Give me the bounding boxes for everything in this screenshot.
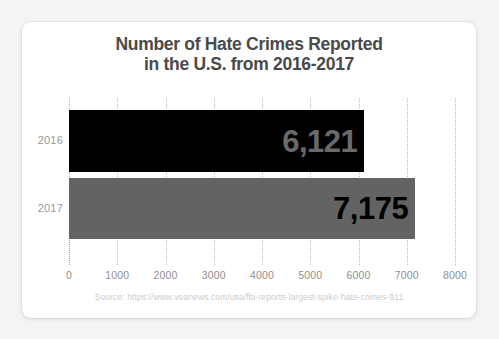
bar-value-2017: 7,175: [333, 193, 408, 224]
bar-series: 6,121 7,175: [69, 98, 455, 265]
x-tick-6000: 6000: [346, 269, 370, 281]
bar-2017[interactable]: 7,175: [69, 178, 415, 239]
x-tick-1000: 1000: [105, 269, 129, 281]
x-tick-0: 0: [66, 269, 72, 281]
x-tick-8000: 8000: [443, 269, 467, 281]
bar-2016[interactable]: 6,121: [69, 110, 364, 172]
category-axis: 2016 2017: [22, 98, 69, 265]
chart-card: Number of Hate Crimes Reported in the U.…: [22, 22, 476, 318]
x-tick-7000: 7000: [395, 269, 419, 281]
category-label-2016: 2016: [38, 134, 63, 146]
gridline-8000: [455, 98, 456, 265]
chart-canvas: Number of Hate Crimes Reported in the U.…: [0, 0, 499, 339]
x-tick-5000: 5000: [298, 269, 322, 281]
bar-value-2016: 6,121: [282, 126, 357, 157]
x-tick-4000: 4000: [250, 269, 274, 281]
chart-title-line-2: in the U.S. from 2016-2017: [22, 54, 476, 74]
source-caption: Source: https://www.voanews.com/usa/fbi-…: [22, 292, 476, 302]
chart-title: Number of Hate Crimes Reported in the U.…: [22, 34, 476, 74]
category-label-2017: 2017: [38, 202, 63, 214]
x-axis-tick-labels: 010002000300040005000600070008000: [69, 269, 455, 285]
chart-title-line-1: Number of Hate Crimes Reported: [115, 34, 382, 54]
x-tick-2000: 2000: [153, 269, 177, 281]
plot-area: 6,121 7,175: [69, 98, 455, 265]
x-tick-3000: 3000: [202, 269, 226, 281]
